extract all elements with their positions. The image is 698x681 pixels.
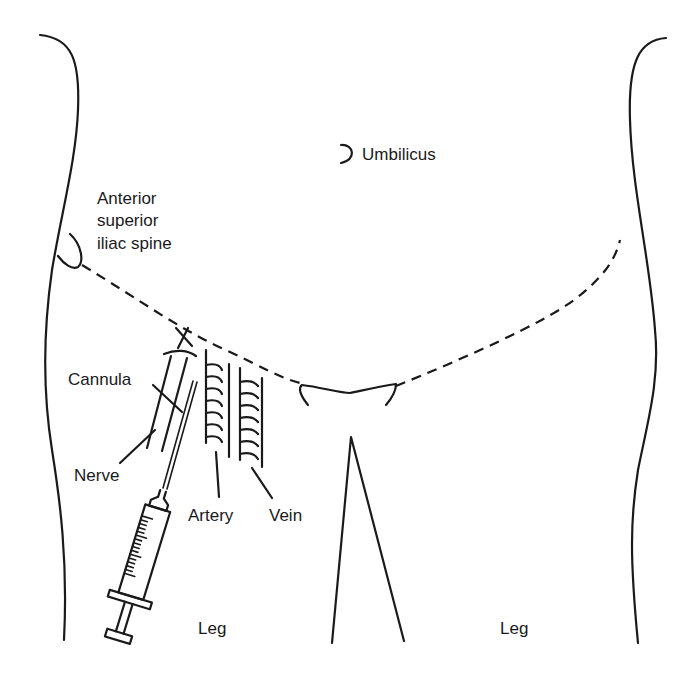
vein-leader <box>252 468 272 498</box>
umbilicus-label: Umbilicus <box>362 145 436 164</box>
vein <box>240 368 262 467</box>
body-outline-right <box>630 38 666 643</box>
body-outline-left <box>40 35 78 640</box>
vein-label: Vein <box>269 506 302 525</box>
femoral-block-diagram: Umbilicus Anterior superior iliac spine … <box>0 0 698 681</box>
artery <box>206 350 229 457</box>
cannula-label: Cannula <box>68 370 132 389</box>
inguinal-ligament-dashed-line <box>82 265 300 383</box>
syringe <box>96 485 184 647</box>
asis-label-line3: iliac spine <box>97 234 172 253</box>
asis-mark <box>58 234 81 268</box>
inguinal-ligament-dashed-line-right <box>396 240 620 386</box>
asis-label-line2: superior <box>97 211 159 230</box>
cannula-needle-inner <box>167 382 197 489</box>
nerve-leader <box>120 430 155 463</box>
nerve <box>164 351 196 356</box>
artery-label: Artery <box>188 506 234 525</box>
leg-label-right: Leg <box>500 619 528 638</box>
umbilicus-mark <box>341 145 352 163</box>
thigh-separation <box>332 437 404 643</box>
leg-label-left: Leg <box>198 619 226 638</box>
nerve-label: Nerve <box>74 466 119 485</box>
asis-label-line1: Anterior <box>97 189 157 208</box>
pubic-symphysis <box>300 384 396 405</box>
artery-leader <box>216 452 219 497</box>
